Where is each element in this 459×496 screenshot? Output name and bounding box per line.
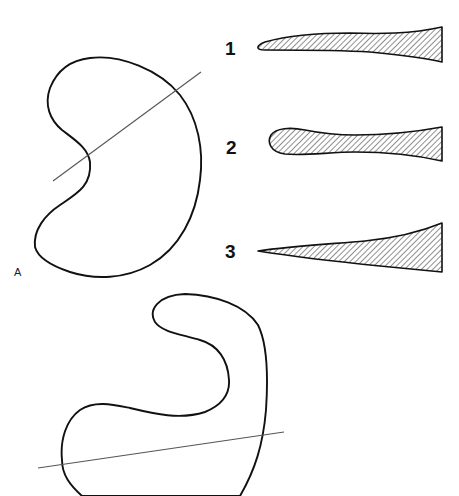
section-label-2: 2 bbox=[226, 137, 237, 158]
diagram-figure: A 1 2 3 bbox=[0, 0, 459, 496]
cross-section-3: 3 bbox=[225, 223, 442, 272]
kidney-section-line bbox=[53, 72, 201, 181]
profile-3-shape bbox=[258, 223, 442, 272]
profile-1-shape bbox=[258, 27, 442, 62]
hook-outline bbox=[62, 294, 267, 496]
hook-section-line bbox=[38, 432, 284, 468]
cross-section-2: 2 bbox=[226, 127, 442, 161]
hook-outline-group bbox=[38, 294, 284, 496]
cross-section-1: 1 bbox=[225, 27, 442, 62]
panel-label-a: A bbox=[14, 266, 22, 278]
section-label-1: 1 bbox=[225, 38, 236, 59]
section-label-3: 3 bbox=[225, 241, 236, 262]
profile-2-shape bbox=[269, 127, 442, 161]
kidney-outline-group bbox=[35, 57, 201, 277]
